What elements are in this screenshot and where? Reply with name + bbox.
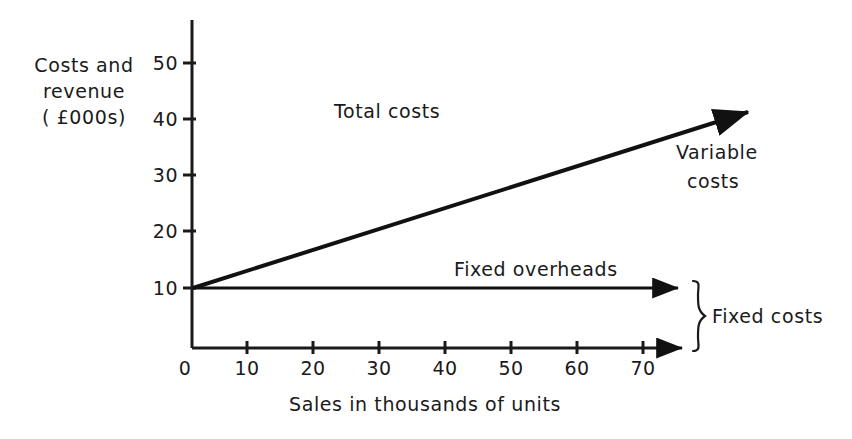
- variable-costs-label-line-1: Variable: [676, 141, 758, 163]
- x-tick-label-10: 10: [227, 357, 267, 379]
- fixed-costs-label: Fixed costs: [712, 305, 823, 327]
- cost-volume-chart: Costs and revenue ( £000s) 50 40 30 20 1…: [0, 0, 852, 439]
- x-tick-label-70: 70: [623, 357, 663, 379]
- y-axis-title-line-2: revenue: [14, 78, 154, 104]
- y-tick-label-50: 50: [138, 52, 178, 74]
- y-axis-title: Costs and revenue ( £000s): [14, 52, 154, 130]
- y-axis-title-line-1: Costs and: [14, 52, 154, 78]
- x-tick-label-60: 60: [557, 357, 597, 379]
- y-tick-label-40: 40: [138, 108, 178, 130]
- x-tick-label-50: 50: [491, 357, 531, 379]
- y-axis-title-line-3: ( £000s): [14, 104, 154, 130]
- y-tick-label-30: 30: [138, 164, 178, 186]
- total-costs-label: Total costs: [334, 100, 440, 122]
- x-tick-label-20: 20: [293, 357, 333, 379]
- fixed-costs-brace: [693, 281, 705, 351]
- x-axis-title: Sales in thousands of units: [285, 393, 565, 415]
- y-axis-ticks: [183, 63, 196, 288]
- x-tick-label-0: 0: [165, 357, 205, 379]
- variable-costs-label-line-2: costs: [687, 170, 739, 192]
- y-tick-label-10: 10: [138, 277, 178, 299]
- x-tick-label-40: 40: [425, 357, 465, 379]
- x-tick-label-30: 30: [359, 357, 399, 379]
- fixed-overheads-label: Fixed overheads: [454, 258, 618, 280]
- y-tick-label-20: 20: [138, 220, 178, 242]
